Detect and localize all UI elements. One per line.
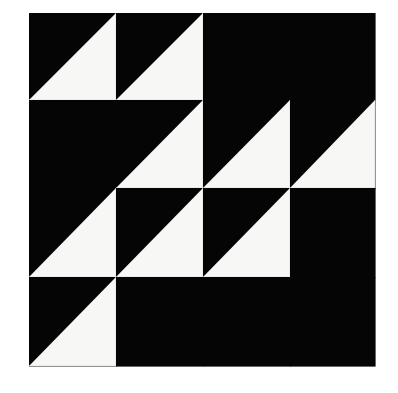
- dark-square: [203, 277, 291, 367]
- dark-square: [290, 277, 376, 367]
- quilt-cell-r1-c2: [203, 100, 291, 189]
- quilt-cell-r0-c1: [116, 13, 204, 101]
- quilt-cell-r3-c1: [116, 277, 204, 367]
- quilt-cell-r0-c0: [29, 13, 117, 101]
- quilt-cell-r1-c1: [116, 100, 204, 189]
- quilt-cell-r0-c2: [203, 13, 291, 101]
- dark-square: [116, 277, 204, 367]
- dark-square: [290, 188, 376, 278]
- quilt-pattern: [0, 0, 398, 393]
- quilt-cell-r1-c3: [290, 100, 376, 189]
- quilt-cell-r2-c2: [203, 188, 291, 278]
- dark-square: [29, 100, 117, 189]
- quilt-cell-r3-c2: [203, 277, 291, 367]
- dark-square: [203, 13, 291, 101]
- quilt-cell-r3-c3: [290, 277, 376, 367]
- quilt-cell-r2-c0: [29, 188, 117, 278]
- quilt-cell-r1-c0: [29, 100, 117, 189]
- quilt-cell-r2-c3: [290, 188, 376, 278]
- quilt-block: [0, 0, 398, 393]
- dark-square: [290, 13, 376, 101]
- quilt-cell-r2-c1: [116, 188, 204, 278]
- quilt-cell-r0-c3: [290, 13, 376, 101]
- quilt-cell-r3-c0: [29, 277, 117, 367]
